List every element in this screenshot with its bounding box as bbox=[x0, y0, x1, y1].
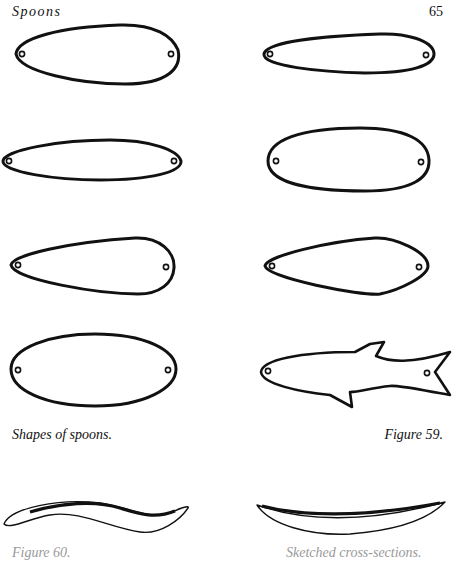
figure-caption: Shapes of spoons. bbox=[12, 427, 112, 443]
spoon-shape-rounded-oval bbox=[268, 128, 429, 191]
spoon-shape-pear-drop bbox=[11, 238, 174, 294]
spoon-shape-fish bbox=[261, 342, 450, 407]
spoon-profile-s-curve bbox=[4, 502, 188, 533]
spoon-shape-oval bbox=[11, 334, 176, 406]
cut-off-caption-left: Figure 60. bbox=[12, 545, 71, 561]
spoon-shape-teardrop-wide bbox=[16, 25, 179, 84]
spoon-shape-teardrop-slim bbox=[264, 34, 434, 73]
cut-off-caption-right: Sketched cross-sections. bbox=[286, 545, 422, 561]
spoon-shape-kite-drop bbox=[265, 238, 428, 294]
spoon-profile-arc bbox=[257, 502, 445, 534]
spoon-shape-willow-leaf bbox=[3, 140, 181, 180]
figure-label: Figure 59. bbox=[384, 427, 443, 443]
